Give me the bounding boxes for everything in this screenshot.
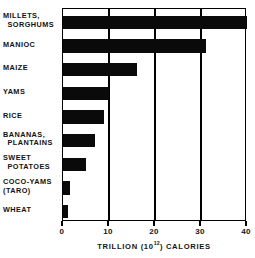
- x-axis-tick-labels: 010203040: [62, 227, 246, 239]
- bar: [63, 63, 137, 76]
- category-label-line: WHEAT: [3, 205, 31, 214]
- category-label-line: SWEET: [3, 153, 31, 162]
- x-axis-title: TRILLION (1012) CALORIES: [62, 240, 246, 251]
- category-label: MILLETS,SORGHUMS: [3, 12, 62, 29]
- x-tick-label: 0: [60, 227, 65, 236]
- category-label-line: MANIOC: [3, 40, 35, 49]
- bar: [63, 158, 86, 171]
- x-tick: [245, 221, 246, 226]
- x-axis-ticks: [62, 221, 246, 226]
- category-label: WHEAT: [3, 206, 62, 215]
- category-label-line: MILLETS,: [3, 11, 40, 20]
- x-tick-label: 10: [103, 227, 113, 236]
- x-tick: [61, 221, 62, 226]
- x-tick: [107, 221, 108, 226]
- bar: [63, 181, 70, 194]
- category-label-line: MAIZE: [3, 63, 28, 72]
- x-tick: [199, 221, 200, 226]
- x-tick-label: 20: [149, 227, 159, 236]
- category-label: RICE: [3, 112, 62, 121]
- x-axis-title-tail: ) CALORIES: [160, 242, 211, 251]
- x-tick-label: 40: [241, 227, 251, 236]
- bar: [63, 16, 247, 29]
- category-label-line: RICE: [3, 111, 22, 120]
- category-label: BANANAS,PLANTAINS: [3, 131, 62, 148]
- category-label: YAMS: [3, 88, 62, 97]
- bar: [63, 39, 206, 52]
- x-tick-label: 30: [195, 227, 205, 236]
- category-label-line: (TARO): [3, 187, 62, 196]
- category-label-line: POTATOES: [3, 163, 62, 172]
- bar: [63, 110, 104, 123]
- x-axis-title-main: TRILLION (10: [97, 242, 154, 251]
- category-label-line: PLANTAINS: [3, 139, 62, 148]
- category-label: COCO-YAMS(TARO): [3, 178, 62, 195]
- category-label-line: SORGHUMS: [3, 21, 62, 30]
- bar-chart: MILLETS,SORGHUMSMANIOCMAIZEYAMSRICEBANAN…: [0, 0, 255, 258]
- category-label-line: YAMS: [3, 87, 25, 96]
- bar: [63, 134, 95, 147]
- bar: [63, 87, 109, 100]
- category-labels: MILLETS,SORGHUMSMANIOCMAIZEYAMSRICEBANAN…: [0, 8, 62, 221]
- category-label: MAIZE: [3, 64, 62, 73]
- category-label: SWEETPOTATOES: [3, 154, 62, 171]
- category-label: MANIOC: [3, 41, 62, 50]
- bars-group: [63, 9, 245, 220]
- x-tick: [153, 221, 154, 226]
- plot-area: [62, 8, 246, 221]
- bar: [63, 205, 68, 218]
- category-label-line: COCO-YAMS: [3, 177, 52, 186]
